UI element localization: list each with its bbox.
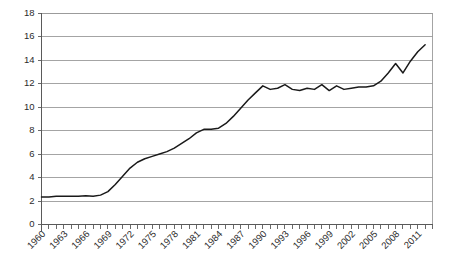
x-tick-label: 1966: [69, 228, 92, 251]
gridlines-group: [42, 13, 433, 201]
y-tick-label: 14: [24, 54, 35, 65]
series-line-value: [42, 45, 426, 197]
x-tick-label: 1975: [135, 228, 158, 251]
x-axis: [42, 225, 433, 229]
y-tick-label: 4: [29, 171, 34, 182]
x-tick-label: 1993: [268, 228, 291, 251]
y-axis-tick-labels: 024681012141618: [24, 7, 35, 230]
line-chart: 024681012141618 196019631966196919721975…: [0, 0, 458, 270]
x-tick-label: 1972: [113, 228, 136, 251]
x-tick-label: 2011: [401, 228, 423, 250]
x-tick-label: 1990: [246, 228, 269, 251]
data-series-line: [42, 45, 426, 197]
x-tick-label: 1981: [180, 228, 203, 251]
y-tick-label: 18: [24, 7, 35, 18]
x-tick-label: 1960: [25, 228, 48, 251]
y-tick-label: 8: [29, 124, 34, 135]
y-tick-label: 12: [24, 77, 35, 88]
x-tick-label: 1987: [224, 228, 247, 251]
y-axis: [38, 13, 42, 231]
x-tick-label: 1984: [202, 228, 225, 251]
x-tick-label: 2008: [379, 228, 402, 251]
y-tick-label: 10: [24, 101, 35, 112]
x-tick-label: 1996: [290, 228, 313, 251]
y-tick-label: 0: [29, 218, 34, 229]
x-tick-label: 2002: [335, 228, 358, 251]
y-tick-label: 16: [24, 30, 35, 41]
x-axis-tick-labels: 1960196319661969197219751978198119841987…: [25, 228, 424, 251]
plot-border: [42, 13, 433, 225]
plot-area-border: [42, 13, 433, 225]
x-tick-label: 1999: [312, 228, 335, 251]
x-tick-label: 2005: [357, 228, 380, 251]
x-tick-label: 1978: [157, 228, 180, 251]
x-tick-label: 1969: [91, 228, 114, 251]
x-tick-label: 1963: [47, 228, 70, 251]
chart-canvas: 024681012141618 196019631966196919721975…: [0, 0, 458, 270]
y-tick-label: 6: [29, 148, 34, 159]
y-tick-label: 2: [29, 195, 34, 206]
